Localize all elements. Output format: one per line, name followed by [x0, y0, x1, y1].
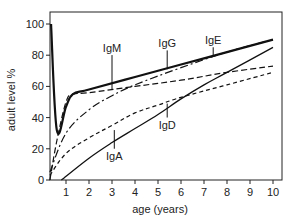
x-tick-label: 7	[201, 186, 207, 198]
series-label-igm: IgM	[103, 42, 121, 54]
x-tick-label: 8	[224, 186, 230, 198]
y-tick-label: 80	[32, 49, 44, 61]
x-tick-label: 4	[132, 186, 138, 198]
series-label-iga: IgA	[106, 150, 123, 162]
x-tick-label: 2	[86, 186, 92, 198]
series-label-igd: IgD	[159, 119, 176, 131]
x-axis: 12345678910	[63, 180, 279, 198]
x-tick-label: 5	[155, 186, 161, 198]
x-tick-label: 6	[178, 186, 184, 198]
x-tick-label: 10	[267, 186, 279, 198]
y-axis-title: adult level %	[5, 69, 17, 132]
series-line-ige	[50, 40, 273, 173]
y-tick-label: 100	[26, 18, 44, 30]
y-tick-label: 40	[32, 112, 44, 124]
x-tick-label: 1	[63, 186, 69, 198]
series-labels: IgGIgMIgEIgAIgD	[103, 34, 222, 161]
y-axis: 020406080100	[26, 18, 50, 186]
x-tick-label: 9	[247, 186, 253, 198]
immunoglobulin-age-chart: 020406080100 12345678910 IgGIgMIgEIgAIgD…	[0, 0, 295, 220]
series-label-ige: IgE	[205, 34, 222, 46]
y-tick-label: 60	[32, 80, 44, 92]
y-tick-label: 0	[38, 174, 44, 186]
x-axis-title: age (years)	[132, 203, 188, 215]
series-label-igg: IgG	[158, 37, 176, 49]
x-tick-label: 3	[109, 186, 115, 198]
y-tick-label: 20	[32, 143, 44, 155]
